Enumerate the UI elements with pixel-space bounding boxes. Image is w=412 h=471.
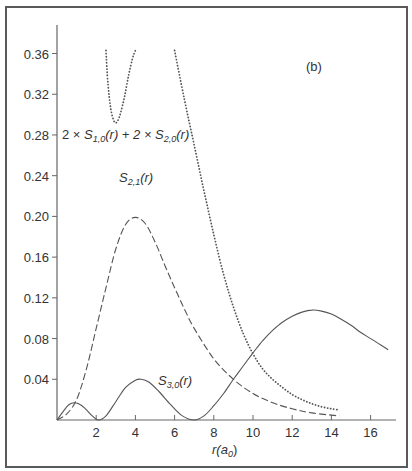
- series-s21-line: [57, 217, 339, 420]
- y-tick-label: 0.08: [24, 332, 49, 347]
- ann3-subscript: 3,0: [167, 380, 180, 390]
- ann1-part: S: [155, 127, 164, 142]
- y-tick-label: 0.32: [24, 87, 49, 102]
- x-tick-label: 14: [324, 425, 338, 440]
- x-tick-label: 12: [285, 425, 299, 440]
- panel-label: (b): [306, 59, 322, 74]
- series-s30-line: [57, 310, 388, 420]
- y-tick-label: 0.04: [24, 372, 49, 387]
- x-tick-label: 6: [171, 425, 178, 440]
- chart-plot-area: 246810121416 0.040.080.120.160.200.240.2…: [0, 0, 412, 471]
- ann2-subscript: 2,1: [127, 177, 141, 187]
- x-tick-label: 2: [93, 425, 100, 440]
- ann2-part: (r): [140, 170, 153, 185]
- y-ticks: 0.040.080.120.160.200.240.280.320.36: [24, 47, 57, 388]
- ann1-subscript: 1,0: [93, 134, 106, 144]
- x-axis-label: r(a0): [212, 442, 237, 459]
- y-tick-label: 0.28: [24, 128, 49, 143]
- y-tick-label: 0.16: [24, 250, 49, 265]
- ann2-part: S: [119, 170, 128, 185]
- ann1-part: 2 ×: [62, 127, 84, 142]
- ann1-subscript: 2,0: [163, 134, 177, 144]
- x-ticks: 246810121416: [93, 415, 378, 440]
- annotation-2s10-2s20: 2 × S1,0(r) + 2 × S2,0(r): [62, 127, 189, 144]
- series-2s10-2s20-line: [175, 51, 340, 410]
- annotation-s21: S2,1(r): [119, 170, 153, 187]
- series-lines: [57, 51, 388, 421]
- axes: 246810121416 0.040.080.120.160.200.240.2…: [24, 25, 396, 440]
- y-tick-label: 0.24: [24, 169, 49, 184]
- annotation-s30: S3,0(r): [158, 373, 192, 390]
- xlabel-part: r(a: [212, 442, 228, 457]
- ann1-part: S: [84, 127, 93, 142]
- y-tick-label: 0.36: [24, 47, 49, 62]
- ann1-part: (r): [176, 127, 189, 142]
- ann3-part: S: [158, 373, 167, 388]
- x-tick-label: 10: [246, 425, 260, 440]
- xlabel-part: ): [233, 442, 237, 457]
- ann3-part: (r): [179, 373, 192, 388]
- x-tick-label: 8: [210, 425, 217, 440]
- y-tick-label: 0.12: [24, 291, 49, 306]
- y-tick-label: 0.20: [24, 209, 49, 224]
- ann1-part: (r) + 2 ×: [105, 127, 155, 142]
- series-2s10-2s20-line: [106, 51, 135, 123]
- x-tick-label: 16: [363, 425, 377, 440]
- x-tick-label: 4: [132, 425, 139, 440]
